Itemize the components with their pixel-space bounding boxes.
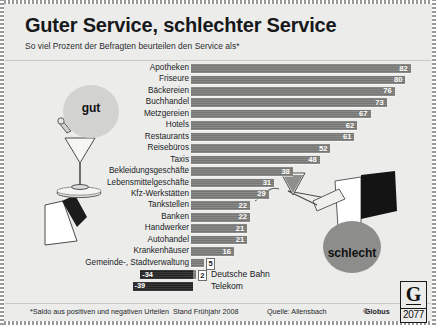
- chart-row: Bekleidungsgeschäfte38: [5, 166, 431, 177]
- bar-wrapper: 73: [191, 98, 387, 107]
- bar-wrapper: 38: [191, 167, 293, 176]
- chart-row: Taxis48: [5, 155, 431, 166]
- category-label: Tankstellen: [148, 200, 189, 210]
- bar: [191, 64, 411, 73]
- footnote-saldo: *Saldo aus positiven und negativen Urtei…: [30, 307, 169, 317]
- bar: [191, 76, 405, 85]
- header-divider: [5, 60, 431, 61]
- chart-row: Apotheken82: [5, 63, 431, 74]
- bar-value-label: 82: [398, 64, 409, 74]
- bar-value-label: 52: [317, 144, 328, 154]
- bar: [191, 98, 387, 107]
- category-label: Lebensmittelgeschäfte: [107, 178, 189, 188]
- category-label: Friseure: [159, 74, 189, 84]
- bar-chart: Apotheken82Friseure80Bäckereien76Buchhan…: [5, 63, 431, 263]
- bar: [191, 156, 320, 165]
- footer: *Saldo aus positiven und negativen Urtei…: [5, 307, 431, 323]
- copyright-name: Globus: [365, 307, 390, 316]
- bar-value-label: 16: [221, 247, 232, 257]
- bar-wrapper: 76: [191, 87, 395, 96]
- bar-wrapper: 82: [191, 64, 411, 73]
- bar: [191, 87, 395, 96]
- chart-row: Restaurants61: [5, 132, 431, 143]
- chart-row: Gemeinde-, Stadtverwaltung5: [5, 258, 431, 269]
- chart-row: Banken22: [5, 212, 431, 223]
- chart-row: Buchhandel73: [5, 97, 431, 108]
- copyright: © Globus: [363, 307, 390, 317]
- bar-wrapper: 21: [191, 224, 247, 233]
- category-label: Metzgereien: [144, 109, 189, 119]
- page-subtitle: So viel Prozent der Befragten beurteilen…: [25, 41, 425, 52]
- category-label: Banken: [161, 212, 189, 222]
- bar-wrapper: 67: [191, 110, 371, 119]
- category-label: Reisebüros: [148, 143, 189, 153]
- bar-value-label: 76: [382, 86, 393, 96]
- bar-wrapper: 61: [191, 133, 354, 142]
- footnote-stand: Stand Frühjahr 2008: [173, 307, 239, 317]
- category-label: Autohandel: [148, 235, 189, 245]
- bar-wrapper: 31: [191, 179, 274, 188]
- footer-divider: [5, 303, 431, 304]
- footnote-quelle: Quelle: Allensbach: [267, 307, 327, 317]
- logo-underline: [406, 304, 421, 305]
- bar-value-label: 48: [307, 155, 318, 165]
- bar: [191, 110, 371, 119]
- bar-wrapper: 16: [191, 247, 234, 256]
- bar-value-label: 61: [342, 132, 353, 142]
- bar: [191, 167, 293, 176]
- globus-infographic: Guter Service, schlechter Service So vie…: [0, 0, 436, 325]
- category-label: Hotels: [166, 120, 189, 130]
- category-label: Kfz-Werkstätten: [131, 189, 189, 199]
- bar-wrapper: 21: [191, 236, 247, 245]
- bar: [191, 133, 354, 142]
- category-label: Bäckereien: [148, 86, 189, 96]
- bar-wrapper: 80: [191, 76, 405, 85]
- bar-wrapper: 22: [191, 201, 250, 210]
- bar-value-label: 62: [344, 121, 355, 131]
- chart-row: Bäckereien76: [5, 86, 431, 97]
- chart-row: Autohandel21: [5, 235, 431, 246]
- frame-border-right: [432, 0, 436, 325]
- negative-category-label: Deutsche Bahn: [211, 269, 270, 280]
- category-label: Bekleidungsgeschäfte: [109, 166, 189, 176]
- frame-border-left: [0, 0, 4, 325]
- chart-row: Metzgereien67: [5, 109, 431, 120]
- frame-border-top: [0, 0, 436, 4]
- bar: [191, 259, 204, 268]
- category-label: Buchhandel: [146, 97, 189, 107]
- category-label: Taxis: [170, 155, 189, 165]
- chart-canvas: Guter Service, schlechter Service So vie…: [5, 5, 431, 320]
- bar-wrapper: 48: [191, 156, 320, 165]
- category-label: Apotheken: [150, 63, 189, 73]
- chart-row: Kfz-Werkstätten29: [5, 189, 431, 200]
- negative-bar: -34: [140, 270, 193, 279]
- chart-row: Handwerker21: [5, 223, 431, 234]
- bar-value-label: 21: [234, 224, 245, 234]
- bar-value-label: 38: [280, 167, 291, 177]
- negative-bar-value-label: -34: [142, 270, 153, 280]
- bar-wrapper: 29: [191, 190, 269, 199]
- header: Guter Service, schlechter Service So vie…: [25, 13, 425, 52]
- globus-logo: G 2077: [400, 281, 427, 323]
- bar-value-label: 29: [256, 189, 267, 199]
- bar-wrapper: 5: [191, 259, 204, 268]
- category-label: Restaurants: [145, 132, 189, 142]
- bar-wrapper: 52: [191, 144, 330, 153]
- bar-wrapper: 22: [191, 213, 250, 222]
- bar-value-label: 22: [237, 201, 248, 211]
- bar: [191, 144, 330, 153]
- category-label: Gemeinde-, Stadtverwaltung: [85, 258, 189, 268]
- negative-bar-value-label: -39: [135, 281, 146, 291]
- bar: [191, 121, 357, 130]
- bar-value-label: 80: [392, 75, 403, 85]
- negative-bar-group: -34Deutsche Bahn-39Telekom: [5, 270, 431, 296]
- negative-category-label: Telekom: [211, 281, 243, 292]
- bar-value-label: 22: [237, 212, 248, 222]
- chart-row: Friseure80: [5, 74, 431, 85]
- copyright-symbol: ©: [363, 307, 368, 317]
- bar-value-label: 67: [358, 109, 369, 119]
- negative-bar: -39: [133, 282, 193, 291]
- chart-row: Lebensmittelgeschäfte31: [5, 178, 431, 189]
- bar-value-label: 31: [261, 178, 272, 188]
- chart-row: Krankenhäuser16: [5, 246, 431, 257]
